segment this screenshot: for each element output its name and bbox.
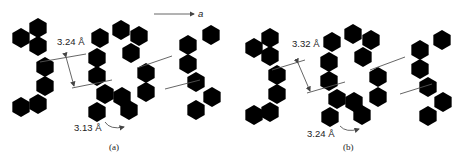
molecule-left-b (245, 28, 285, 125)
plane-line (370, 57, 405, 70)
panel-caption: (a) (109, 142, 119, 152)
contact-arrow (105, 122, 124, 128)
molecule-left-a (12, 18, 53, 117)
short-contact-label: 3.13 Å (74, 122, 102, 133)
plane-line (40, 54, 86, 62)
molecular-stacking-figure: 3.24 Å 3.13 Å (a) a (0, 0, 466, 163)
panel-a: 3.24 Å 3.13 Å (a) a (12, 8, 220, 152)
axis-label: a (198, 8, 203, 19)
distance-arrow (298, 63, 310, 91)
panel-b: 3.32 Å 3.24 Å (b) (245, 24, 451, 152)
plane-line (137, 56, 172, 68)
distance-arrow (66, 57, 74, 86)
molecule-right-b (411, 30, 451, 126)
interlayer-distance-label: 3.32 Å (292, 38, 320, 49)
interlayer-distance-label: 3.24 Å (57, 36, 85, 47)
molecule-right-a (179, 25, 220, 120)
contact-arrow (340, 126, 359, 130)
short-contact-label: 3.24 Å (307, 128, 335, 139)
panel-caption: (b) (343, 142, 354, 152)
